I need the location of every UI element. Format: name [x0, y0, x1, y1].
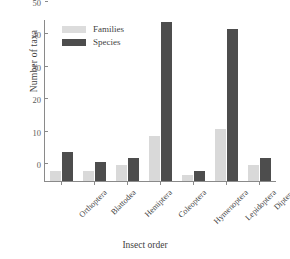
bar-families-lepidoptera: [215, 129, 226, 181]
bar-group: [215, 20, 238, 181]
bar-families-orthoptera: [50, 171, 61, 181]
legend-swatch-families: [62, 26, 86, 33]
y-tick-20: 20: [33, 89, 46, 107]
y-tick-30: 30: [33, 57, 46, 75]
legend-label-species: Species: [93, 37, 121, 47]
y-tick-label: 0: [37, 160, 45, 170]
x-tick-label-orthoptera: Orthoptera: [77, 188, 108, 219]
bar-families-blattodea: [83, 171, 94, 181]
bar-species-hemiptera: [128, 158, 139, 181]
x-tick-mark: [193, 182, 194, 185]
x-axis-title: Insect order: [0, 240, 290, 250]
bar-families-coleoptera: [149, 136, 160, 181]
x-tick-mark: [259, 182, 260, 185]
x-axis-ticks: OrthopteraBlattodeaHemipteraColeopteraHy…: [44, 182, 276, 240]
x-tick-label-coleoptera: Coleoptera: [177, 188, 209, 220]
bar-species-orthoptera: [62, 152, 73, 181]
legend-label-families: Families: [93, 24, 124, 34]
bar-families-diptera: [248, 165, 259, 181]
x-tick-label-hymenoptera: Hymenoptera: [212, 188, 250, 226]
legend-swatch-species: [62, 39, 86, 46]
y-tick-label: 50: [33, 0, 46, 8]
bar-species-hymenoptera: [194, 171, 205, 181]
legend-item-families: Families: [62, 24, 124, 34]
bar-group: [149, 20, 172, 181]
x-tick-mark: [160, 182, 161, 185]
bar-species-lepidoptera: [227, 29, 238, 181]
bar-species-coleoptera: [161, 22, 172, 181]
x-tick-mark: [127, 182, 128, 185]
x-tick-mark: [61, 182, 62, 185]
bar-species-blattodea: [95, 162, 106, 181]
y-tick-10: 10: [33, 122, 46, 140]
y-tick-mark: [45, 1, 48, 2]
chart-legend: Families Species: [62, 24, 124, 50]
x-tick-label-blattodea: Blattodea: [109, 188, 138, 217]
bar-species-diptera: [260, 158, 271, 181]
bar-group: [182, 20, 205, 181]
x-tick-label-hemiptera: Hemiptera: [143, 188, 174, 219]
y-tick-label: 10: [33, 128, 46, 138]
legend-item-species: Species: [62, 37, 124, 47]
x-tick-mark: [94, 182, 95, 185]
y-tick-40: 40: [33, 24, 46, 42]
y-tick-50: 50: [33, 0, 46, 10]
bar-families-hymenoptera: [182, 175, 193, 181]
y-tick-label: 20: [33, 95, 46, 105]
insect-taxa-bar-chart: Number of taxa 01020304050 OrthopteraBla…: [0, 0, 290, 259]
x-tick-mark: [226, 182, 227, 185]
y-tick-label: 40: [33, 30, 46, 40]
bar-families-hemiptera: [116, 165, 127, 181]
y-tick-0: 0: [37, 154, 45, 172]
y-tick-label: 30: [33, 63, 46, 73]
bar-group: [248, 20, 271, 181]
